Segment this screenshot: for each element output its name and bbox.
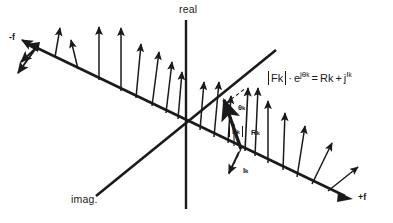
axis-label-imag: imag. [71,193,98,205]
equation-exponent: jθk [300,70,309,79]
axis-label-positive-frequency: +f [358,192,366,202]
theta-k-label: θk [238,103,245,112]
axis-frequency [25,42,353,202]
axis-label-real: real [179,3,197,15]
equation-real-part: Rk [320,72,333,84]
diagram-svg [0,0,393,223]
equation-magnitude-term: Fk [268,72,286,84]
axis-label-negative-frequency: -f [9,32,15,42]
magnitude-fk-label: Fk [229,127,243,136]
theta-subscript: k [242,105,245,111]
imag-component-ik-label: Ik [243,166,248,175]
phasor-group-negative [55,27,182,119]
equation-plus: + [333,72,343,84]
equation-expression: Fk·ejθk=Rk+jIk [268,70,352,84]
rk-subscript: k [256,130,259,136]
magnitude-subscript: k [237,129,240,135]
imag-component-vector [229,152,239,173]
figure-canvas: real imag. -f +f θk Fk Rk Ik Fk·ejθk=Rk+… [0,0,393,223]
equation-equals: = [310,72,320,84]
ik-subscript: k [245,168,248,174]
equation-dot: · [286,72,294,84]
real-component-rk-label: Rk [251,128,260,137]
real-component-vector [245,88,248,151]
equation-imag-part: Ik [346,70,351,79]
